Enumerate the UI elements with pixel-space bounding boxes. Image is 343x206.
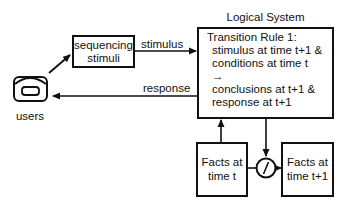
rule-line-2: conditions at time t bbox=[212, 57, 308, 70]
logical-system-title: Logical System bbox=[197, 11, 334, 24]
rule-line-1: stimulus at time t+1 & bbox=[212, 44, 322, 57]
telephone-icon bbox=[14, 77, 47, 101]
facts-t-line2: time t bbox=[198, 170, 246, 183]
users-label: users bbox=[12, 110, 48, 123]
transition-rule-heading: Transition Rule 1: bbox=[207, 31, 297, 44]
facts-t1-line2: time t+1 bbox=[283, 170, 332, 183]
rule-implies-arrow: → bbox=[212, 70, 224, 83]
facts-t1-line1: Facts at bbox=[283, 156, 332, 169]
rule-line-4: conclusions at t+1 & bbox=[212, 83, 315, 96]
arrow-users-to-sequencing bbox=[49, 55, 70, 73]
facts-time-t-box: Facts at time t bbox=[196, 142, 248, 197]
logical-system-box: Transition Rule 1: stimulus at time t+1 … bbox=[197, 27, 334, 119]
sequencing-stimuli-box: sequencing stimuli bbox=[72, 35, 135, 68]
facts-t-line1: Facts at bbox=[198, 156, 246, 169]
sequencing-label-line2: stimuli bbox=[74, 52, 133, 65]
stimulus-edge-label: stimulus bbox=[141, 38, 183, 51]
response-edge-label: response bbox=[143, 82, 190, 95]
rule-line-5: response at t+1 bbox=[212, 96, 292, 109]
slash-circle-icon bbox=[257, 159, 276, 178]
sequencing-label-line1: sequencing bbox=[74, 39, 133, 52]
facts-time-t1-box: Facts at time t+1 bbox=[281, 142, 334, 197]
